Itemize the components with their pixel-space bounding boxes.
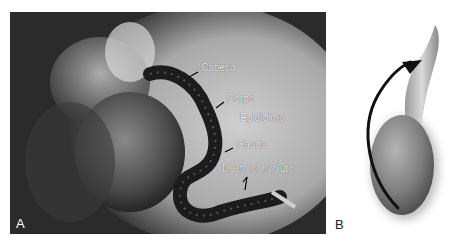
photo-panel-a: Cabeça Corpo Epidídimo Cauda Ducto convo… xyxy=(10,12,326,234)
panel-letter-a: A xyxy=(16,217,25,230)
label-corpo: Corpo xyxy=(227,94,254,104)
epididymis-photo xyxy=(10,12,326,234)
label-cauda: Cauda xyxy=(237,140,266,150)
label-ducto-convoluto: Ducto convoluto xyxy=(222,164,294,174)
label-epididimo: Epidídimo xyxy=(240,113,284,123)
illustration-panel-b xyxy=(330,0,450,248)
label-cabeca: Cabeça xyxy=(201,63,235,73)
panel-letter-b: B xyxy=(335,218,344,231)
epididymis-illustration xyxy=(330,0,450,248)
